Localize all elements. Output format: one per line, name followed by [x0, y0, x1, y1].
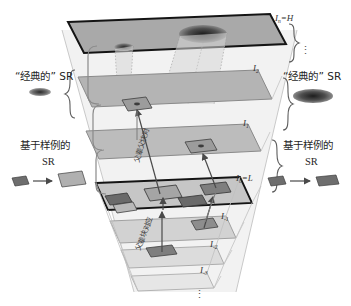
- right-classical-sr-icon: [293, 89, 333, 103]
- vertical-ellipsis-upper: ⋮: [300, 45, 311, 56]
- diagram-canvas: In=H ⋮ I2 I1 I0=L I-1 I-2 I-3 ⋮ “经典的” SR…: [0, 0, 351, 306]
- right-example-sr-label-line2: SR: [305, 157, 318, 168]
- left-classical-sr-icon: [29, 88, 51, 96]
- plane-label-I1: I1: [243, 119, 249, 129]
- plane-label-I-2: I-2: [210, 240, 218, 250]
- right-example-sr-icon: [268, 175, 339, 186]
- plane-label-I2: I2: [253, 64, 259, 74]
- right-example-sr-label-line1: 基于样例的: [283, 140, 333, 151]
- plane-label-I0: I0=L: [236, 174, 253, 184]
- left-example-sr-label-line2: SR: [42, 157, 55, 168]
- pyramid-figure: [0, 0, 351, 306]
- left-example-sr-label-line1: 基于样例的: [20, 140, 70, 151]
- plane-label-I-1: I-1: [221, 212, 229, 222]
- right-classical-sr-label: “经典的” SR: [283, 71, 341, 82]
- plane-I-1: [110, 216, 236, 243]
- vertical-ellipsis-lower: ⋮: [194, 289, 205, 300]
- plane-label-I-3: I-3: [200, 266, 208, 276]
- plane-label-top: In=H: [275, 14, 293, 24]
- left-classical-sr-label: “经典的” SR: [15, 71, 73, 82]
- left-example-sr-icon: [12, 171, 86, 187]
